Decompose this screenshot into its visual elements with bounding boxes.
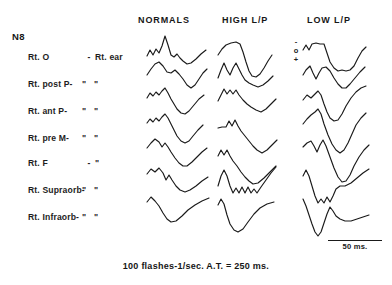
waveform-trace — [147, 88, 204, 114]
row-label-reference: " — [94, 212, 98, 222]
row-label-rt-supraorb: Rt. Supraorb- " " — [28, 185, 148, 197]
figure-caption: 100 flashes-1/sec. A.T. = 250 ms. — [0, 261, 392, 271]
row-label-site: Rt. pre M- — [28, 133, 69, 143]
waveform-trace — [218, 199, 274, 232]
waveform-trace — [303, 86, 366, 121]
waveform-trace — [218, 150, 276, 184]
waveform-trace — [147, 62, 207, 88]
row-label-dash: " — [80, 185, 88, 195]
row-label-reference: " — [94, 133, 98, 143]
row-label-dash: " — [80, 212, 88, 222]
row-label-rt-o: Rt. O - Rt. ear — [28, 52, 148, 64]
waveform-trace — [303, 109, 366, 153]
subject-id: N8 — [12, 31, 25, 42]
scale-bar: 50 ms. — [328, 240, 382, 251]
waveform-trace — [218, 42, 272, 77]
row-label-reference: Rt. ear — [95, 52, 123, 62]
row-label-rt-infraorb: Rt. Infraorb- " " — [28, 212, 148, 224]
row-label-dash: " — [80, 133, 88, 143]
scale-bar-line — [328, 240, 382, 241]
column-header-normals: NORMALS — [138, 15, 190, 25]
polarity-negative: - — [291, 37, 301, 46]
row-label-reference: " — [94, 106, 98, 116]
waveform-trace — [218, 120, 277, 153]
row-label-dash: - — [85, 52, 93, 62]
row-label-reference: " — [94, 185, 98, 195]
waveform-trace — [303, 169, 369, 203]
polarity-key: - o + — [291, 37, 301, 65]
row-label-rt-pre-m: Rt. pre M- " " — [28, 133, 148, 145]
row-label-reference: " — [95, 158, 99, 168]
waveform-trace — [147, 139, 207, 166]
waveform-trace — [147, 114, 203, 143]
waveform-trace — [303, 140, 369, 182]
scale-bar-label: 50 ms. — [328, 242, 382, 251]
waveform-trace — [218, 167, 276, 193]
waveform-trace — [303, 43, 366, 71]
column-header-high-lp: HIGH L/P — [222, 15, 268, 25]
row-label-reference: " — [94, 79, 98, 89]
waveform-trace — [147, 197, 209, 222]
row-label-site: Rt. Supraorb- — [28, 185, 85, 195]
row-label-rt-post-p: Rt. post P- " " — [28, 79, 148, 91]
row-label-dash: " — [80, 79, 88, 89]
waveform-trace — [303, 199, 369, 236]
row-label-site: Rt. F — [28, 158, 48, 168]
row-label-rt-ant-p: Rt. ant P- " " — [28, 106, 148, 118]
waveform-trace — [303, 66, 365, 88]
row-label-dash: " — [80, 106, 88, 116]
column-header-low-lp: LOW L/P — [307, 15, 351, 25]
row-label-site: Rt. Infraorb- — [28, 212, 79, 222]
row-label-site: Rt. O — [28, 52, 49, 62]
waveform-trace — [147, 36, 206, 64]
polarity-zero: o — [291, 46, 301, 55]
waveform-trace — [218, 89, 276, 112]
row-label-dash: - — [85, 158, 93, 168]
row-label-site: Rt. post P- — [28, 79, 73, 89]
waveform-trace — [218, 63, 273, 87]
waveform-trace — [147, 168, 208, 192]
polarity-positive: + — [291, 55, 301, 64]
row-label-rt-f: Rt. F - " — [28, 158, 148, 170]
evoked-potential-figure: NORMALS HIGH L/P LOW L/P N8 Rt. O - Rt. … — [0, 0, 392, 285]
row-label-site: Rt. ant P- — [28, 106, 67, 116]
